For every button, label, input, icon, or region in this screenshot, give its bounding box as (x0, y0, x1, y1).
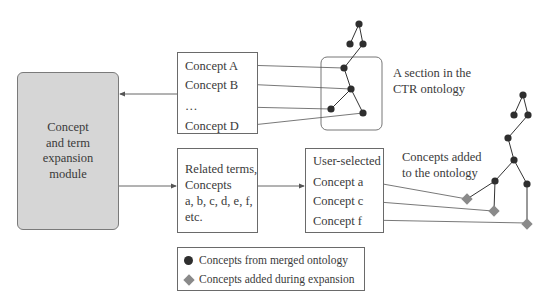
user-selected-box: User-selected Concept a Concept c Concep… (305, 148, 384, 233)
concept-item: … (185, 99, 198, 114)
legend-item-added: Concepts added during expansion (184, 270, 358, 289)
related-line: Related terms, (185, 161, 257, 177)
legend-label: Concepts from merged ontology (199, 251, 348, 270)
related-terms-box: Related terms, Concepts a, b, c, d, e, f… (177, 148, 258, 233)
module-line: Concept (43, 120, 94, 136)
legend-label: Concepts added during expansion (199, 270, 355, 289)
user-selected-title: User-selected (313, 154, 381, 169)
expansion-module-box: Concept and term expansion module (17, 72, 119, 230)
user-concept-item: Concept f (313, 214, 362, 229)
user-concept-connectors (365, 181, 527, 223)
module-line: module (43, 167, 94, 183)
circle-node-icon (184, 256, 193, 265)
ctr-label-line: CTR ontology (393, 81, 471, 97)
added-label-line: Concepts added (402, 150, 482, 166)
related-line: Concepts (185, 177, 257, 193)
related-line: a, b, c, d, e, f, (185, 193, 257, 209)
related-line: etc. (185, 209, 257, 225)
concept-item: Concept A (185, 59, 238, 74)
top-concepts-box: Concept A Concept B … Concept D (177, 52, 258, 134)
ctr-section-label: A section in the CTR ontology (393, 65, 471, 97)
concept-item: Concept B (185, 78, 238, 93)
user-concept-item: Concept c (313, 194, 363, 209)
concepts-added-label: Concepts added to the ontology (402, 150, 482, 181)
module-line: expansion (43, 151, 94, 167)
module-line: and term (43, 136, 94, 152)
diamond-node-icon (183, 274, 194, 285)
legend-box: Concepts from merged ontology Concepts a… (177, 247, 365, 291)
added-label-line: to the ontology (402, 166, 482, 182)
added-concept-diamonds (461, 193, 532, 229)
legend-item-merged: Concepts from merged ontology (184, 251, 358, 270)
user-concept-item: Concept a (313, 175, 363, 190)
ctr-label-line: A section in the (393, 65, 471, 81)
concept-item: Concept D (185, 119, 239, 134)
